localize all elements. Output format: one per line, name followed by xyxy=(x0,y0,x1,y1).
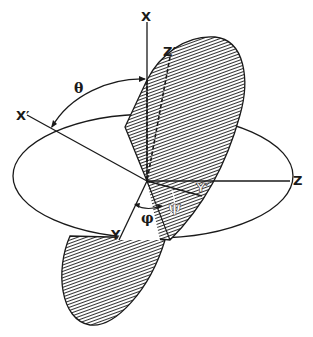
tilted-plane-lower xyxy=(62,236,165,325)
label-y: Y xyxy=(110,227,121,242)
label-z: Z xyxy=(293,173,302,188)
label-psi: ψ xyxy=(168,199,181,215)
euler-angle-diagram: X X′ Z′ Z Y Y′ θ φ ψ xyxy=(0,0,313,337)
label-theta: θ xyxy=(74,80,83,96)
label-x-prime: X′ xyxy=(16,108,30,123)
label-y-prime: Y′ xyxy=(195,180,209,195)
theta-arrow-head-x xyxy=(139,76,146,82)
label-z-prime: Z′ xyxy=(163,44,176,59)
label-phi: φ xyxy=(141,210,154,226)
label-x: X xyxy=(141,9,151,24)
